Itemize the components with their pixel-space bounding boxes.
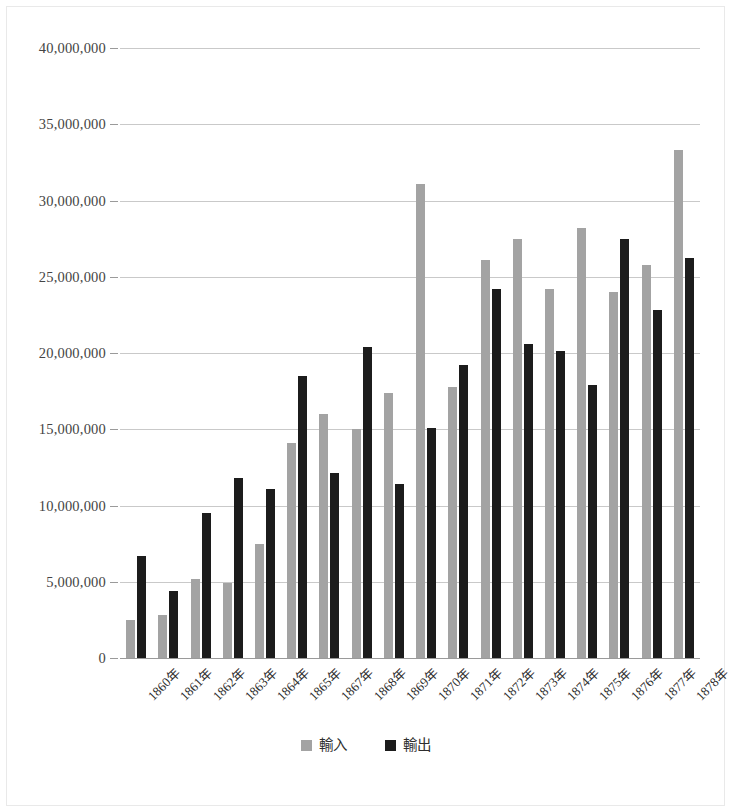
bar-imports-1860年 (126, 620, 135, 658)
gridline (120, 277, 700, 278)
x-tick-label: 1862年 (210, 666, 247, 703)
bar-exports-1863年 (234, 478, 243, 658)
bar-exports-1861年 (169, 591, 178, 658)
x-tick-label: 1863年 (242, 666, 279, 703)
bar-exports-1875年 (588, 385, 597, 658)
y-tick-label: 15,000,000 (2, 422, 106, 437)
y-tick-label: 35,000,000 (2, 117, 106, 132)
y-tick-mark (110, 124, 118, 125)
legend-label: 輸出 (403, 738, 431, 753)
y-tick-mark (110, 658, 118, 659)
y-tick-mark (110, 201, 118, 202)
bar-imports-1874年 (545, 289, 554, 658)
bar-imports-1870年 (416, 184, 425, 658)
y-tick-mark (110, 506, 118, 507)
x-tick-label: 1861年 (178, 666, 215, 703)
x-tick-label: 1873年 (532, 666, 569, 703)
y-tick-label: 20,000,000 (2, 346, 106, 361)
bar-exports-1865年 (298, 376, 307, 658)
bar-exports-1873年 (524, 344, 533, 658)
y-tick-mark (110, 353, 118, 354)
x-tick-label: 1872年 (500, 666, 537, 703)
bar-imports-1863年 (223, 583, 232, 658)
bar-imports-1861年 (158, 615, 167, 658)
x-tick-label: 1871年 (468, 666, 505, 703)
bar-imports-1864年 (255, 544, 264, 658)
gridline (120, 201, 700, 202)
legend-label: 輸入 (319, 738, 347, 753)
bar-exports-1871年 (459, 365, 468, 658)
x-tick-label: 1867年 (339, 666, 376, 703)
y-tick-mark (110, 582, 118, 583)
bar-exports-1877年 (653, 310, 662, 658)
x-tick-label: 1877年 (661, 666, 698, 703)
y-tick-mark (110, 429, 118, 430)
x-tick-label: 1869年 (403, 666, 440, 703)
bar-exports-1864年 (266, 489, 275, 658)
gridline (120, 124, 700, 125)
legend-entry-imports[interactable]: 輸入 (301, 738, 347, 753)
gridline (120, 48, 700, 49)
bar-imports-1862年 (191, 579, 200, 658)
y-tick-label: 0 (2, 651, 106, 666)
plot-area (120, 48, 700, 658)
bar-exports-1874年 (556, 351, 565, 658)
x-tick-label: 1878年 (693, 666, 730, 703)
bar-exports-1868年 (363, 347, 372, 658)
bar-imports-1867年 (319, 414, 328, 658)
bar-imports-1876年 (609, 292, 618, 658)
bar-imports-1871年 (448, 387, 457, 658)
chart-legend: 輸入輸出 (0, 738, 731, 753)
legend-swatch-icon (385, 740, 396, 751)
y-tick-mark (110, 48, 118, 49)
bar-imports-1868年 (352, 429, 361, 658)
x-tick-label: 1870年 (436, 666, 473, 703)
bar-exports-1867年 (330, 473, 339, 658)
bar-exports-1870年 (427, 428, 436, 658)
bar-exports-1869年 (395, 484, 404, 658)
x-tick-label: 1868年 (371, 666, 408, 703)
y-tick-label: 10,000,000 (2, 499, 106, 514)
y-tick-label: 25,000,000 (2, 270, 106, 285)
x-tick-label: 1876年 (629, 666, 666, 703)
bar-imports-1877年 (642, 265, 651, 658)
x-tick-label: 1860年 (146, 666, 183, 703)
y-tick-label: 5,000,000 (2, 575, 106, 590)
x-tick-label: 1865年 (307, 666, 344, 703)
bar-exports-1878年 (685, 258, 694, 658)
y-tick-label: 40,000,000 (2, 41, 106, 56)
legend-swatch-icon (301, 740, 312, 751)
x-tick-label: 1874年 (564, 666, 601, 703)
x-tick-label: 1875年 (597, 666, 634, 703)
bar-imports-1873年 (513, 239, 522, 658)
y-tick-mark (110, 277, 118, 278)
bar-exports-1872年 (492, 289, 501, 658)
legend-entry-exports[interactable]: 輸出 (385, 738, 431, 753)
x-tick-label: 1864年 (274, 666, 311, 703)
chart-page: 05,000,00010,000,00015,000,00020,000,000… (0, 0, 731, 812)
bar-exports-1876年 (620, 239, 629, 658)
bar-imports-1872年 (481, 260, 490, 658)
bar-exports-1860年 (137, 556, 146, 658)
bar-imports-1875年 (577, 228, 586, 658)
y-tick-label: 30,000,000 (2, 194, 106, 209)
axis-baseline (120, 658, 700, 659)
bar-imports-1878年 (674, 150, 683, 658)
bar-imports-1865年 (287, 443, 296, 658)
bar-exports-1862年 (202, 513, 211, 658)
bar-imports-1869年 (384, 393, 393, 658)
